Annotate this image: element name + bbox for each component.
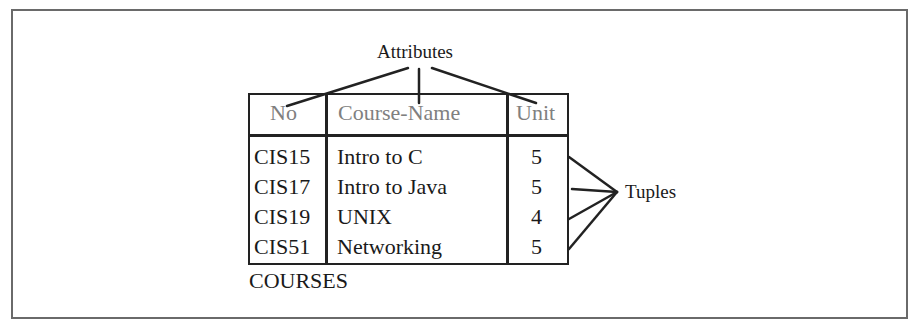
tuple-pointer-2	[572, 189, 617, 192]
tuple-pointer-3	[569, 192, 617, 219]
attribute-pointer-unit	[432, 68, 536, 103]
attribute-pointer-no	[287, 68, 408, 106]
tuple-pointer-4	[569, 192, 617, 249]
tuple-pointer-1	[569, 157, 617, 192]
connector-lines	[0, 0, 917, 329]
